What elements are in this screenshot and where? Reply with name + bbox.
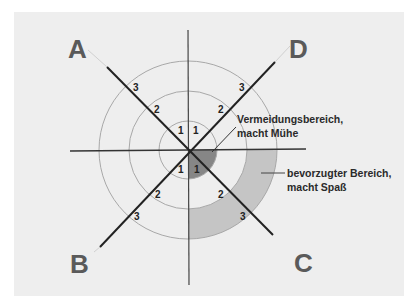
diagonal-b-extension bbox=[94, 247, 100, 252]
ring-number-d-3: 3 bbox=[239, 82, 245, 93]
ring-number-b-2: 2 bbox=[155, 189, 161, 200]
vertical-axis bbox=[188, 30, 189, 285]
ring-number-b-3: 3 bbox=[134, 211, 140, 222]
ring-number-c-3: 3 bbox=[240, 211, 246, 222]
avoidance-leader-line bbox=[212, 127, 236, 152]
diagonal-d-extension bbox=[275, 46, 290, 62]
diagonal-a-extension bbox=[88, 50, 107, 67]
quadrant-label-d: D bbox=[289, 34, 308, 64]
quadrant-diagram: A D B C 1 2 3 1 2 3 1 2 3 1 2 3 Vermeidu… bbox=[0, 0, 415, 308]
avoidance-label-line-1: Vermeidungsbereich, bbox=[237, 113, 343, 125]
preferred-label-line-1: bevorzugter Bereich, bbox=[287, 167, 392, 179]
ring-number-c-2: 2 bbox=[218, 189, 224, 200]
quadrant-label-c: C bbox=[294, 248, 313, 278]
preferred-label-line-2: macht Spaß bbox=[287, 181, 347, 193]
ring-number-b-1: 1 bbox=[178, 164, 184, 175]
avoidance-label-line-2: macht Mühe bbox=[237, 127, 298, 139]
quadrant-label-a: A bbox=[68, 34, 87, 64]
ring-number-a-2: 2 bbox=[154, 104, 160, 115]
ring-number-d-1: 1 bbox=[193, 125, 199, 136]
ring-number-a-1: 1 bbox=[178, 125, 184, 136]
ring-number-a-3: 3 bbox=[133, 82, 139, 93]
quadrant-label-b: B bbox=[70, 249, 89, 279]
ring-number-d-2: 2 bbox=[218, 104, 224, 115]
ring-number-c-1: 1 bbox=[194, 164, 200, 175]
